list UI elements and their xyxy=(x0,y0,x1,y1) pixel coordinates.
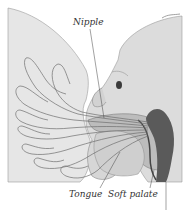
label-soft-palate: Soft palate xyxy=(108,189,158,199)
baby-eye xyxy=(116,81,122,89)
breast xyxy=(8,8,91,182)
label-nipple: Nipple xyxy=(73,17,103,27)
breastfeeding-diagram xyxy=(0,0,189,210)
label-tongue: Tongue xyxy=(69,189,102,199)
